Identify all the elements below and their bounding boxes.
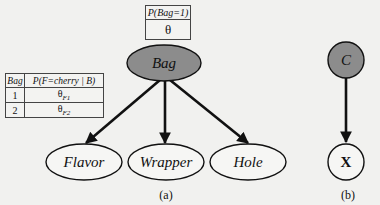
theta-subscript: F2 [63, 109, 71, 117]
edge-bag-hole [170, 80, 248, 143]
cpt-row: 2 θF2 [6, 103, 104, 118]
bayes-net-figure: Bag Flavor Wrapper Hole (a) C X (b) [0, 0, 380, 205]
cpt-bag-value: 1 [6, 88, 25, 103]
node-hole-label: Hole [232, 154, 263, 170]
prior-table-value: θ [146, 20, 191, 40]
caption-b: (b) [341, 188, 355, 202]
conditional-probability-table: Bag P(F=cherry | B) 1 θF1 2 θF2 [5, 73, 104, 118]
node-x-label: X [341, 154, 352, 170]
cpt-theta-value: θF1 [25, 88, 104, 103]
cpt-bag-value: 2 [6, 103, 25, 118]
cpt-header-bag: Bag [6, 74, 25, 88]
node-x: X [328, 144, 364, 180]
node-hole: Hole [210, 144, 286, 180]
caption-a: (a) [159, 188, 172, 202]
node-wrapper-label: Wrapper [140, 154, 193, 170]
cpt-header-prob: P(F=cherry | B) [25, 74, 104, 88]
cpt-row: 1 θF1 [6, 88, 104, 103]
node-bag-label: Bag [152, 55, 177, 71]
node-wrapper: Wrapper [128, 144, 204, 180]
node-flavor-label: Flavor [63, 154, 105, 170]
node-c: C [328, 42, 364, 78]
edges-panel-a [86, 80, 248, 143]
prior-probability-table: P(Bag=1) θ [145, 5, 191, 40]
prior-table-header: P(Bag=1) [146, 6, 191, 20]
node-flavor: Flavor [46, 144, 122, 180]
theta-subscript: F1 [63, 94, 71, 102]
cpt-theta-value: θF2 [25, 103, 104, 118]
node-bag: Bag [127, 45, 201, 81]
node-c-label: C [341, 52, 352, 68]
